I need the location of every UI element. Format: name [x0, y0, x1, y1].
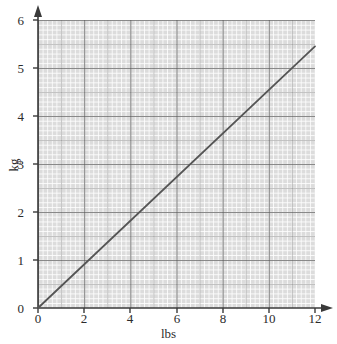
x-tick-label: 4 — [127, 312, 134, 325]
arrow-right-icon — [321, 304, 333, 312]
y-tick-label: 0 — [18, 302, 25, 315]
x-tick-label: 8 — [220, 312, 227, 325]
y-tick-label: 2 — [18, 206, 25, 219]
y-tick-label: 6 — [18, 14, 25, 27]
arrow-up-icon — [34, 5, 42, 17]
y-tick-label: 5 — [18, 62, 25, 75]
x-tick-label: 2 — [81, 312, 88, 325]
x-axis-title: lbs — [0, 327, 337, 341]
x-tick-label: 10 — [263, 312, 276, 325]
x-tick-label: 12 — [309, 312, 322, 325]
y-tick-label: 4 — [18, 110, 25, 123]
conversion-chart: 0 2 4 6 8 10 12 0 1 2 3 4 5 6 lbs kg — [0, 0, 337, 344]
graph-paper-grid — [38, 20, 315, 308]
y-tick-label: 1 — [18, 254, 25, 267]
x-tick-label: 6 — [174, 312, 181, 325]
y-axis-title: kg — [7, 145, 21, 185]
x-tick-label: 0 — [35, 312, 42, 325]
